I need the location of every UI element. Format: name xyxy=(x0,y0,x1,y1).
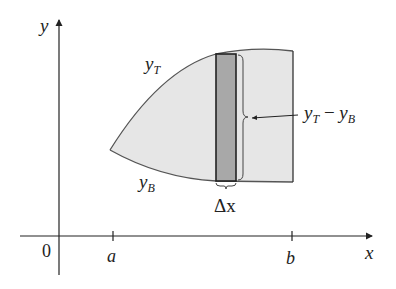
x-axis-label: x xyxy=(364,242,374,263)
y-axis-label: y xyxy=(38,15,49,36)
strip-width-label: Δx xyxy=(214,195,236,216)
area-between-curves-figure: y x 0 a b yT yB Δx yT − yB xyxy=(0,0,396,289)
diagram-canvas: y x 0 a b yT yB Δx yT − yB xyxy=(0,0,396,289)
shaded-region xyxy=(110,49,293,182)
origin-label: 0 xyxy=(42,241,51,261)
bottom-curve-label: yB xyxy=(137,171,155,195)
width-brace xyxy=(216,183,236,189)
tick-b-label: b xyxy=(286,248,295,268)
strip-height-label: yT − yB xyxy=(302,102,356,126)
top-curve-label: yT xyxy=(143,53,161,77)
tick-a-label: a xyxy=(107,246,116,266)
delta-symbol: Δx xyxy=(214,195,236,216)
representative-strip xyxy=(216,54,236,181)
